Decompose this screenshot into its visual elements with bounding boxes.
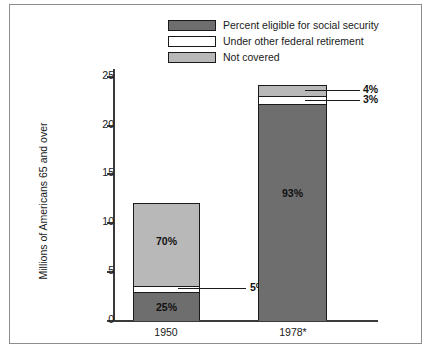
y-tick-label-10-wrap: 10 — [60, 222, 114, 224]
y-tick-label-10: 10 — [74, 215, 114, 227]
y-tick-label-20: 20 — [74, 118, 114, 130]
y-tick-label-0-wrap: 0 — [60, 320, 114, 322]
y-tick-label-5: 5 — [74, 264, 114, 276]
bar-1978[interactable]: 93% — [258, 85, 327, 320]
bar-1950[interactable]: 70% 25% — [133, 203, 200, 320]
bar-1950-segment-eligible: 25% — [134, 292, 199, 321]
bar-1978-segment-eligible: 93% — [259, 104, 326, 321]
y-tick-label-0: 0 — [74, 313, 114, 325]
bar-1950-label-not-covered: 70% — [134, 235, 199, 247]
y-tick-label-25-wrap: 25 — [60, 76, 114, 78]
bar-1950-segment-not-covered: 70% — [134, 204, 199, 286]
bar-1978-segment-not-covered — [259, 86, 326, 96]
callout-line-1950-other-federal — [178, 288, 246, 289]
y-axis-title: Millions of Americans 65 and over — [37, 106, 49, 296]
callout-label-1978-other-federal: 3% — [363, 93, 378, 105]
x-tick-label-1950: 1950 — [121, 326, 211, 338]
chart-figure: Percent eligible for social security Und… — [0, 0, 435, 359]
plot-area: 25 20 15 10 5 0 Millions of Americans 65… — [0, 0, 435, 359]
y-axis-line — [113, 69, 115, 321]
bar-1950-label-eligible: 25% — [134, 301, 199, 313]
y-tick-label-15: 15 — [74, 166, 114, 178]
y-tick-label-5-wrap: 5 — [60, 271, 114, 273]
x-tick-label-1978: 1978* — [248, 326, 338, 338]
y-tick-label-25: 25 — [74, 69, 114, 81]
bar-1978-label-eligible: 93% — [259, 187, 326, 199]
callout-line-1978-not-covered — [305, 90, 360, 91]
y-tick-label-20-wrap: 20 — [60, 125, 114, 127]
callout-line-1978-other-federal — [305, 100, 360, 101]
y-tick-label-15-wrap: 15 — [60, 173, 114, 175]
